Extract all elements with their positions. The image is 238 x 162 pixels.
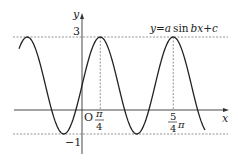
equation-label: y=asinbx+c — [149, 22, 218, 34]
x-tick-5pi4-denominator: 4 — [170, 123, 176, 134]
x-tick-5pi4-pi: π — [177, 119, 185, 130]
y-tick-min: −1 — [65, 136, 81, 149]
x-axis-label: x — [222, 112, 229, 125]
y-axis-arrow-icon — [80, 13, 84, 19]
y-tick-max: 3 — [73, 25, 80, 38]
origin-label: O — [84, 111, 93, 124]
x-tick-pi4-numerator: π — [95, 108, 103, 119]
y-axis-label: y — [72, 8, 80, 21]
sine-graph: y x O 3 −1 π 4 5 4 π y=asinbx+c — [0, 0, 238, 162]
x-tick-pi4-denominator: 4 — [96, 121, 102, 132]
x-tick-5pi4-numerator: 5 — [170, 111, 176, 122]
